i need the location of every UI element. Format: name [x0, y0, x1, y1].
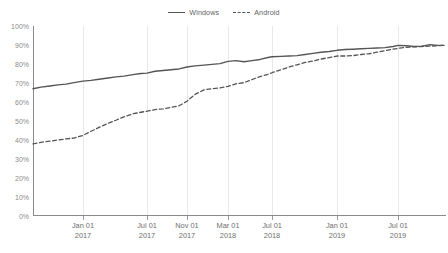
- y-axis-tick-label: 80%: [15, 61, 29, 68]
- chart-svg: 0%10%20%30%40%50%60%70%80%90%100% Jan 01…: [0, 0, 448, 253]
- y-axis-tick-label: 40%: [15, 137, 29, 144]
- x-axis-tick-label-month: Jan 01: [72, 221, 94, 230]
- x-axis-ticks-group: [84, 216, 399, 220]
- line-chart: Windows Android 0%10%20%30%40%50%60%70%8…: [0, 0, 448, 253]
- x-axis-tick-label-year: 2018: [264, 231, 280, 240]
- series-line-android[interactable]: [33, 45, 444, 143]
- x-axis-tick-label-year: 2017: [179, 231, 195, 240]
- x-axis-tick-label-year: 2018: [220, 231, 236, 240]
- y-axis-tick-label: 70%: [15, 80, 29, 87]
- data-series-group: [33, 45, 444, 144]
- y-axis-tick-label: 0%: [19, 213, 29, 220]
- y-axis-tick-label: 50%: [15, 118, 29, 125]
- x-axis-tick-label-month: Jul 01: [262, 221, 282, 230]
- footer-note: [6, 246, 206, 253]
- x-axis-tick-label-year: 2017: [139, 231, 155, 240]
- x-axis-tick-label-month: Jul 01: [388, 221, 408, 230]
- x-axis-tick-label-month: Mar 01: [216, 221, 239, 230]
- x-axis-tick-label-year: 2019: [329, 231, 345, 240]
- x-axis-tick-label-month: Jan 01: [326, 221, 348, 230]
- y-axis-tick-label: 100%: [11, 23, 29, 30]
- x-axis-labels-group: Jan 012017Jul 012017Nov 012017Mar 012018…: [72, 221, 408, 240]
- x-axis-tick-label-year: 2019: [390, 231, 406, 240]
- y-axis-tick-label: 30%: [15, 156, 29, 163]
- x-axis-tick-label-month: Nov 01: [175, 221, 198, 230]
- x-axis-tick-label-year: 2017: [75, 231, 91, 240]
- y-axis-tick-label: 90%: [15, 42, 29, 49]
- gridlines-group: [84, 26, 399, 216]
- y-axis-tick-label: 20%: [15, 175, 29, 182]
- y-axis-labels-group: 0%10%20%30%40%50%60%70%80%90%100%: [11, 23, 29, 220]
- y-axis-tick-label: 60%: [15, 99, 29, 106]
- y-axis-tick-label: 10%: [15, 194, 29, 201]
- x-axis-tick-label-month: Jul 01: [137, 221, 157, 230]
- plot-area: 0%10%20%30%40%50%60%70%80%90%100% Jan 01…: [0, 0, 448, 253]
